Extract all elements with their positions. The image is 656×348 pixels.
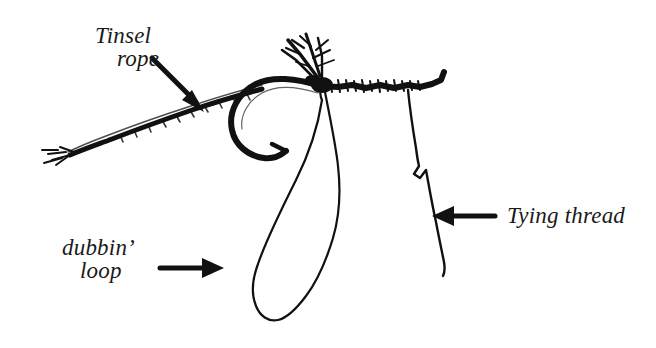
label-tying-thread: Tying thread <box>507 204 625 227</box>
label-tinsel-rope-line1: Tinsel <box>95 23 151 48</box>
label-dubbin-loop: dubbin’ loop <box>62 236 135 283</box>
label-tinsel-rope: Tinsel rope <box>95 24 159 71</box>
fly-tying-diagram: Tinsel rope dubbin’ loop Tying thread <box>0 0 656 348</box>
label-dubbin-loop-line1: dubbin’ <box>62 235 135 260</box>
label-dubbin-loop-line2: loop <box>62 259 135 282</box>
label-tinsel-rope-line2: rope <box>95 47 159 70</box>
label-tying-thread-line1: Tying thread <box>507 203 625 228</box>
